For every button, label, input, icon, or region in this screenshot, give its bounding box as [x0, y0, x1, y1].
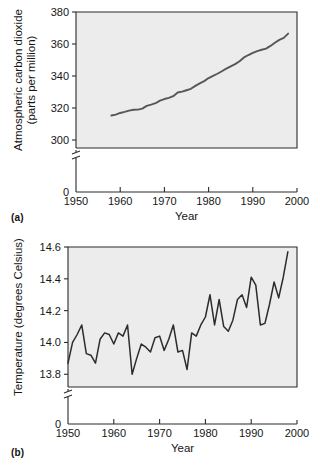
y-tick-label: 14.2	[40, 305, 61, 317]
x-tick-label: 1990	[239, 427, 263, 439]
y-tick-label: 14.6	[40, 241, 61, 253]
x-axis-title: Year	[171, 442, 194, 454]
x-tick-label: 2000	[285, 427, 309, 439]
plot-background	[76, 12, 297, 148]
y-tick-label: 13.8	[40, 368, 61, 380]
y-tick-label: 340	[51, 70, 69, 82]
x-tick-label: 1950	[64, 195, 88, 207]
y-tick-label: 380	[51, 6, 69, 18]
x-tick-label: 1970	[152, 195, 176, 207]
co2-chart: 3003203403603800195019601970198019902000…	[0, 0, 320, 235]
panel-label-a: (a)	[11, 212, 24, 223]
y-tick-label: 14.4	[40, 273, 61, 285]
x-tick-label: 2000	[285, 195, 309, 207]
y-tick-label: 300	[51, 134, 69, 146]
x-tick-label: 1970	[147, 427, 171, 439]
y-axis-title-line1: Atmospheric carbon dioxide	[12, 9, 24, 151]
temperature-chart: 13.814.014.214.414.601950196019701980199…	[0, 235, 320, 469]
y-axis-title-line2: (parts per million)	[25, 35, 37, 124]
y-tick-label: 320	[51, 102, 69, 114]
plot-background	[68, 247, 297, 387]
y-tick-label: 360	[51, 38, 69, 50]
x-tick-label: 1990	[241, 195, 265, 207]
panel-label-b: (b)	[11, 447, 24, 458]
x-tick-label: 1980	[196, 195, 220, 207]
y-axis-title: Temperature (degrees Celsius)	[12, 238, 24, 396]
y-axis-break-icon	[72, 150, 80, 192]
x-tick-label: 1950	[56, 427, 80, 439]
x-tick-label: 1960	[108, 195, 132, 207]
y-tick-label: 14.0	[40, 336, 61, 348]
x-tick-label: 1980	[193, 427, 217, 439]
temperature-chart-figure: 13.814.014.214.414.601950196019701980199…	[0, 235, 320, 469]
y-axis-break-icon	[64, 389, 72, 424]
x-tick-label: 1960	[102, 427, 126, 439]
x-axis-title: Year	[175, 210, 198, 222]
co2-chart-figure: 3003203403603800195019601970198019902000…	[0, 0, 320, 235]
